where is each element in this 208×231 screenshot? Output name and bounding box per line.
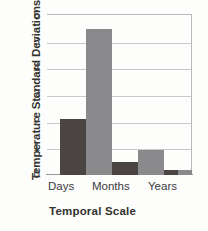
y-tick-5: 5: [26, 36, 40, 47]
y-axis-tick-labels: 0123456: [24, 0, 40, 231]
x-tick-months: Months: [92, 180, 130, 192]
x-axis-title: Temporal Scale: [0, 205, 185, 217]
bar-months-light: [138, 150, 164, 175]
chart-figure: Temperature Standard Deviations 0123456 …: [0, 0, 208, 231]
bar-days-light: [86, 29, 112, 175]
y-tick-0: 0: [26, 169, 40, 180]
x-tick-years: Years: [148, 180, 177, 192]
y-tick-1: 1: [26, 142, 40, 153]
y-tick-6: 6: [26, 9, 40, 20]
y-tick-4: 4: [26, 62, 40, 73]
bar-months-dark: [112, 162, 138, 175]
bar-years-dark: [164, 170, 178, 175]
bar-years-light: [178, 170, 192, 175]
bar-days-dark: [60, 119, 86, 175]
y-tick-3: 3: [26, 89, 40, 100]
x-axis-tick-labels: DaysMonthsYears: [40, 180, 208, 196]
x-tick-days: Days: [48, 180, 74, 192]
bar-series: [46, 14, 192, 175]
y-tick-2: 2: [26, 116, 40, 127]
